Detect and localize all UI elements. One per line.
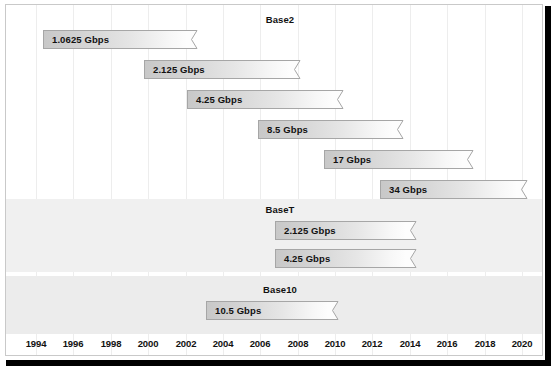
bar-label: 2.125 Gbps bbox=[284, 221, 336, 240]
bar-tip-icon bbox=[462, 150, 474, 169]
bar-tip-icon bbox=[289, 60, 301, 79]
bar-tip bbox=[405, 221, 417, 240]
section-title-base2: Base2 bbox=[6, 14, 542, 25]
bar-tip-icon bbox=[405, 249, 417, 268]
figure-shadow-right bbox=[545, 6, 551, 366]
axis-tick-2002: 2002 bbox=[166, 338, 206, 349]
bar-label: 2.125 Gbps bbox=[153, 60, 205, 79]
bar-base2-0[interactable]: 1.0625 Gbps bbox=[43, 30, 198, 49]
axis-tick-1998: 1998 bbox=[91, 338, 131, 349]
bar-base2-1[interactable]: 2.125 Gbps bbox=[144, 60, 301, 79]
bar-tip bbox=[332, 90, 344, 109]
bar-tip bbox=[462, 150, 474, 169]
section-title-label: BaseT bbox=[265, 204, 294, 215]
bar-tip bbox=[327, 301, 339, 320]
fibre-channel-roadmap-figure: Base21.0625 Gbps2.125 Gbps4.25 Gbps8.5 G… bbox=[0, 0, 551, 366]
section-title-base10: Base10 bbox=[6, 284, 542, 295]
axis-tick-2008: 2008 bbox=[278, 338, 318, 349]
bar-tip-icon bbox=[405, 221, 417, 240]
bar-tip bbox=[289, 60, 301, 79]
axis-tick-2012: 2012 bbox=[352, 338, 392, 349]
bar-tip bbox=[186, 30, 198, 49]
axis-tick-2006: 2006 bbox=[240, 338, 280, 349]
axis-tick-2020: 2020 bbox=[502, 338, 542, 349]
bar-tip bbox=[516, 180, 528, 199]
section-title-baset: BaseT bbox=[6, 204, 542, 215]
figure-shadow-bottom bbox=[6, 360, 551, 366]
year-axis: 1994199619982000200220042006200820102012… bbox=[6, 338, 542, 356]
axis-tick-1996: 1996 bbox=[53, 338, 93, 349]
bar-tip bbox=[392, 120, 404, 139]
bar-label: 4.25 Gbps bbox=[284, 249, 330, 268]
section-title-label: Base10 bbox=[263, 284, 297, 295]
bar-base2-5[interactable]: 34 Gbps bbox=[380, 180, 528, 199]
bar-baset-0[interactable]: 2.125 Gbps bbox=[275, 221, 417, 240]
axis-tick-2014: 2014 bbox=[390, 338, 430, 349]
bar-base10-0[interactable]: 10.5 Gbps bbox=[206, 301, 339, 320]
bar-tip-icon bbox=[516, 180, 528, 199]
section-title-label: Base2 bbox=[266, 14, 295, 25]
axis-tick-2004: 2004 bbox=[203, 338, 243, 349]
bar-base2-3[interactable]: 8.5 Gbps bbox=[258, 120, 404, 139]
bar-base2-2[interactable]: 4.25 Gbps bbox=[187, 90, 344, 109]
bar-tip-icon bbox=[186, 30, 198, 49]
bar-tip-icon bbox=[392, 120, 404, 139]
axis-tick-2018: 2018 bbox=[465, 338, 505, 349]
axis-tick-2010: 2010 bbox=[315, 338, 355, 349]
axis-tick-2016: 2016 bbox=[427, 338, 467, 349]
bar-base2-4[interactable]: 17 Gbps bbox=[324, 150, 474, 169]
chart-panel: Base21.0625 Gbps2.125 Gbps4.25 Gbps8.5 G… bbox=[5, 4, 543, 356]
axis-tick-1994: 1994 bbox=[16, 338, 56, 349]
axis-tick-2000: 2000 bbox=[128, 338, 168, 349]
bar-baset-1[interactable]: 4.25 Gbps bbox=[275, 249, 417, 268]
bar-label: 4.25 Gbps bbox=[196, 90, 242, 109]
bar-tip bbox=[405, 249, 417, 268]
bar-label: 1.0625 Gbps bbox=[52, 30, 109, 49]
bar-label: 8.5 Gbps bbox=[267, 120, 308, 139]
bar-label: 17 Gbps bbox=[333, 150, 371, 169]
bar-label: 34 Gbps bbox=[389, 180, 427, 199]
bar-label: 10.5 Gbps bbox=[215, 301, 261, 320]
bar-tip-icon bbox=[327, 301, 339, 320]
bar-tip-icon bbox=[332, 90, 344, 109]
